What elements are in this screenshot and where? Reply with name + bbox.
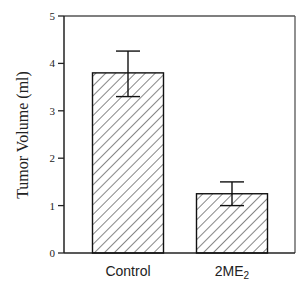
x-tick-label: Control: [105, 263, 150, 279]
y-tick-label: 3: [50, 105, 56, 117]
x-axis-labels: Control2ME2: [105, 263, 249, 281]
y-tick-label: 5: [50, 10, 56, 22]
y-tick-label: 2: [50, 152, 56, 164]
x-tick-label: 2ME2: [215, 263, 250, 281]
y-tick-label: 0: [50, 247, 56, 259]
bar-2me2: [197, 182, 268, 253]
bars: [93, 51, 268, 253]
bar-control: [93, 51, 164, 253]
chart: 012345 Control2ME2 Tumor Volume (ml): [0, 0, 306, 290]
y-tick-label: 1: [50, 200, 56, 212]
y-axis-label: Tumor Volume (ml): [14, 71, 32, 199]
y-tick-label: 4: [50, 57, 56, 69]
